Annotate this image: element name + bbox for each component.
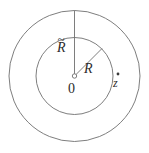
point-z-marker-icon xyxy=(117,73,120,76)
annulus-diagram-svg xyxy=(0,0,149,153)
annulus-figure: ~R R 0 z xyxy=(0,0,149,153)
tilde-accent-icon: ~ xyxy=(58,33,65,46)
origin-label: 0 xyxy=(68,82,75,96)
point-z-label: z xyxy=(113,77,118,89)
origin-marker-icon xyxy=(72,74,76,78)
inner-radius-label: R xyxy=(84,62,93,76)
outer-radius-label: ~R xyxy=(57,41,66,55)
